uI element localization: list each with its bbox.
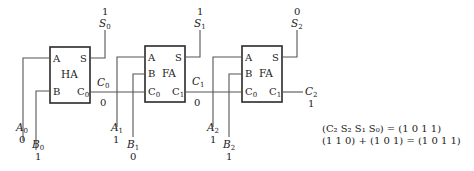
c0-label: C0 xyxy=(97,76,110,90)
full-adder-2-block: A B FA S C0 C1 xyxy=(242,46,282,102)
ha-port-s: S xyxy=(80,53,87,64)
s1-value: 1 xyxy=(197,6,203,17)
s0-label: S0 xyxy=(99,17,111,31)
equation-binary-addition: (1 1 0) + (1 0 1) = (1 0 1 1) xyxy=(322,135,461,146)
equation-sum-bits: (C₂ S₂ S₁ S₀) = (1 0 1 1) xyxy=(322,123,441,134)
c2-label: C2 xyxy=(305,85,318,99)
b1-value: 0 xyxy=(130,151,136,162)
wire-b1 xyxy=(133,74,145,137)
ha-port-b: B xyxy=(53,86,60,97)
c0-value: 0 xyxy=(100,97,106,108)
wire-s0 xyxy=(90,30,105,58)
fa2-port-s: S xyxy=(272,52,279,63)
fa1-label: FA xyxy=(162,67,176,79)
a0-label: A0 xyxy=(15,121,28,135)
c1-label: C1 xyxy=(192,75,205,89)
wire-s1 xyxy=(185,30,200,57)
half-adder-block: A B S HA C0 xyxy=(50,47,90,103)
fa1-port-s: S xyxy=(175,52,182,63)
a0-value: 0 xyxy=(19,134,25,145)
fa1-port-a: A xyxy=(147,52,156,63)
s2-value: 0 xyxy=(294,6,300,17)
s1-label: S1 xyxy=(194,17,206,31)
fa2-label: FA xyxy=(259,67,273,79)
wire-s2 xyxy=(282,30,297,57)
fa2-port-a: A xyxy=(244,52,253,63)
wire-b2 xyxy=(229,74,242,137)
b2-value: 1 xyxy=(226,151,232,162)
a2-value: 1 xyxy=(210,134,216,145)
full-adder-1-block: A B FA S C0 C1 xyxy=(145,46,185,102)
b0-value: 1 xyxy=(35,151,41,162)
a1-label: A1 xyxy=(110,121,123,135)
c2-value: 1 xyxy=(308,98,314,109)
ha-label: HA xyxy=(61,68,78,80)
s0-value: 1 xyxy=(102,6,108,17)
s2-label: S2 xyxy=(291,17,303,31)
ha-port-a: A xyxy=(52,53,61,64)
b1-label: B1 xyxy=(126,138,139,152)
a1-value: 1 xyxy=(113,134,119,145)
ripple-carry-adder-diagram: A B S HA C0 A B FA S C0 C1 A B FA S C0 C… xyxy=(0,0,474,171)
a2-label: A2 xyxy=(206,121,219,135)
fa2-port-b: B xyxy=(245,68,252,79)
fa1-port-b: B xyxy=(148,68,155,79)
b0-label: B0 xyxy=(31,138,44,152)
c1-value: 0 xyxy=(194,97,200,108)
b2-label: B2 xyxy=(222,138,235,152)
result-equations: (C₂ S₂ S₁ S₀) = (1 0 1 1) (1 1 0) + (1 0… xyxy=(322,123,461,146)
